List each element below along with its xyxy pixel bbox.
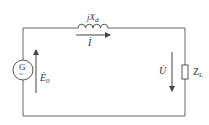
load-label: ZL: [193, 67, 203, 79]
current-label: İ: [88, 38, 91, 48]
generator-tilde: ~: [19, 71, 23, 79]
voltage-label: U̇: [159, 66, 166, 76]
emf-label: Ė0: [40, 73, 50, 85]
load-impedance-icon: [182, 65, 188, 79]
inductor-icon: [78, 24, 108, 28]
circuit-diagram: [0, 0, 209, 125]
reactance-label: jXd: [87, 13, 99, 24]
